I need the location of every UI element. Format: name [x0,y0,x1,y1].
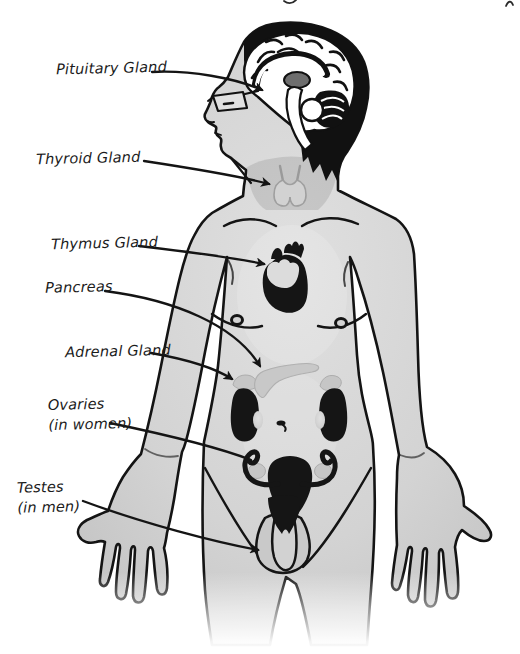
kidney-left-hilum [253,411,263,429]
kidney-right-hilum [315,411,325,429]
diagram-canvas [0,0,520,654]
pons-graphic [301,99,323,121]
thalamus [284,72,310,88]
label-ovaries: Ovaries(in women) [48,393,133,435]
endocrine-diagram: Pituitary Gland Thyroid Gland Thymus Gla… [0,0,520,654]
label-thymus-gland: Thymus Gland [51,232,159,255]
label-testes: Testes(in men) [17,476,81,518]
nipple-left [232,316,243,325]
label-thyroid-gland: Thyroid Gland [36,147,141,170]
nipple-right [336,319,347,328]
top-edge-marks [284,0,513,6]
label-pituitary-gland: Pituitary Gland [56,57,167,80]
bottom-fade [0,572,520,654]
label-pancreas: Pancreas [45,276,113,298]
label-adrenal-gland: Adrenal Gland [65,340,171,363]
